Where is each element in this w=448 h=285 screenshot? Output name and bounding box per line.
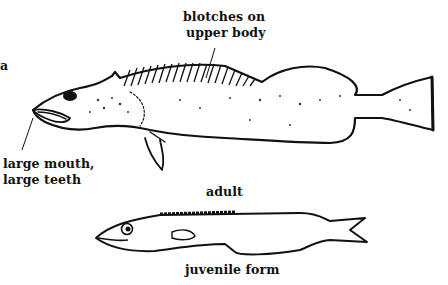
blotches-label-line-1: blotches on <box>183 9 266 25</box>
juvenile-fish <box>96 213 367 254</box>
blotches-label-line-2: upper body <box>183 25 266 41</box>
mouth-leader-line <box>22 118 33 150</box>
adult-eye <box>63 91 77 101</box>
adult-caption: adult <box>206 184 243 200</box>
adult-fish <box>33 65 433 170</box>
mouth-label-line-1: large mouth, <box>3 156 95 172</box>
mouth-label-line-2: large teeth <box>3 172 95 188</box>
dorsal-fin-hatching <box>124 63 255 86</box>
body-speckles <box>89 95 411 126</box>
blotches-label: blotches on upper body <box>183 9 266 41</box>
diagram-canvas <box>0 0 448 285</box>
mouth-label: large mouth, large teeth <box>3 156 95 188</box>
edge-fragment-label: a <box>0 58 8 74</box>
juvenile-caption: juvenile form <box>185 262 280 278</box>
